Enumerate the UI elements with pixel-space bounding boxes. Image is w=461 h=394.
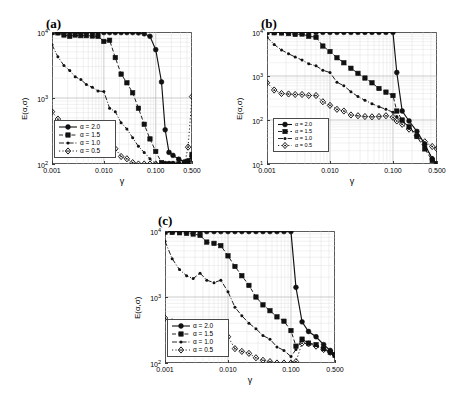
legend-item-b-3[interactable]: α = 0.5 (277, 142, 325, 149)
x-tick-label-b-0: 0.001 (251, 167, 283, 174)
x-tick-label-a-3: 0.500 (176, 167, 208, 174)
x-tick-label-a-2: 0.100 (140, 167, 172, 174)
x-axis-label-b: γ (267, 176, 437, 186)
legend-label-c-0: α = 2.0 (191, 322, 213, 330)
legend-symbol-square-icon (171, 330, 191, 338)
legend-b: α = 2.0α = 1.5α = 1.0α = 0.5 (273, 118, 329, 152)
x-tick-label-a-1: 0.010 (88, 167, 120, 174)
legend-item-c-0[interactable]: α = 2.0 (171, 322, 225, 330)
x-tick-mark-b-3 (437, 161, 438, 164)
legend-label-b-3: α = 0.5 (293, 142, 312, 149)
y-tick-mark-a-1 (52, 98, 55, 99)
legend-label-b-2: α = 1.0 (293, 135, 312, 142)
y-tick-mark-b-3 (267, 164, 270, 165)
panel-a: (a)1041031020.0010.0100.1000.500E(α,σ)γα… (0, 0, 215, 200)
x-tick-label-b-2: 0.100 (377, 167, 409, 174)
legend-symbol-diamond-icon (171, 346, 191, 354)
legend-item-c-1[interactable]: α = 1.5 (171, 330, 225, 338)
legend-item-b-2[interactable]: α = 1.0 (277, 135, 325, 142)
x-tick-mark-a-0 (52, 161, 53, 164)
x-tick-label-c-3: 0.500 (319, 366, 351, 373)
legend-c: α = 2.0α = 1.5α = 1.0α = 0.5 (167, 319, 229, 357)
x-tick-mark-a-2 (156, 161, 157, 164)
x-tick-mark-b-2 (393, 161, 394, 164)
legend-item-a-0[interactable]: α = 2.0 (58, 123, 112, 131)
panel-c: (c)1041031020.0010.0100.1000.500E(α,σ)γα… (110, 195, 360, 394)
y-tick-label-a-1: 103 (26, 94, 48, 103)
x-tick-label-c-0: 0.001 (149, 366, 181, 373)
y-tick-label-b-1: 103 (241, 72, 263, 81)
legend-a: α = 2.0α = 1.5α = 1.0α = 0.5 (54, 120, 116, 158)
y-tick-label-c-1: 103 (139, 293, 161, 302)
legend-symbol-square-icon (277, 128, 293, 135)
x-tick-label-c-1: 0.010 (212, 366, 244, 373)
legend-symbol-square-icon (58, 131, 78, 139)
legend-label-b-1: α = 1.5 (293, 128, 312, 135)
legend-item-b-1[interactable]: α = 1.5 (277, 128, 325, 135)
legend-item-a-2[interactable]: α = 1.0 (58, 139, 112, 147)
panel-label-a: (a) (46, 16, 61, 32)
y-tick-mark-c-2 (165, 363, 168, 364)
legend-symbol-circle-icon (171, 322, 191, 330)
legend-item-b-0[interactable]: α = 2.0 (277, 121, 325, 128)
x-tick-mark-a-1 (104, 161, 105, 164)
y-tick-mark-c-0 (165, 231, 168, 232)
x-tick-mark-a-3 (192, 161, 193, 164)
x-tick-label-b-1: 0.010 (314, 167, 346, 174)
legend-label-a-3: α = 0.5 (78, 147, 100, 155)
x-tick-mark-c-0 (165, 360, 166, 363)
y-tick-mark-c-1 (165, 297, 168, 298)
y-tick-label-a-0: 104 (26, 28, 48, 37)
x-tick-label-c-2: 0.100 (275, 366, 307, 373)
legend-label-c-3: α = 0.5 (191, 346, 213, 354)
legend-item-c-2[interactable]: α = 1.0 (171, 338, 225, 346)
x-tick-mark-b-0 (267, 161, 268, 164)
y-axis-label-c: E(α,σ) (133, 297, 142, 319)
x-axis-label-c: γ (165, 375, 335, 385)
legend-symbol-circle-icon (58, 123, 78, 131)
legend-symbol-dot-icon (58, 139, 78, 147)
y-tick-mark-b-1 (267, 76, 270, 77)
legend-label-b-0: α = 2.0 (293, 121, 312, 128)
y-tick-mark-a-0 (52, 32, 55, 33)
x-tick-mark-c-3 (335, 360, 336, 363)
y-axis-label-a: E(α,σ) (20, 98, 29, 120)
panel-b: (b)1041031021010.0010.0100.1000.500E(α,σ… (215, 0, 461, 200)
y-tick-mark-b-2 (267, 120, 270, 121)
legend-label-a-0: α = 2.0 (78, 123, 100, 131)
legend-symbol-diamond-icon (277, 142, 293, 149)
x-tick-label-a-0: 0.001 (36, 167, 68, 174)
y-tick-label-b-2: 102 (241, 116, 263, 125)
legend-symbol-circle-icon (277, 121, 293, 128)
y-axis-label-b: E(α,σ) (235, 98, 244, 120)
panel-label-b: (b) (261, 16, 277, 32)
x-tick-label-b-3: 0.500 (421, 167, 453, 174)
legend-symbol-diamond-icon (58, 147, 78, 155)
legend-symbol-dot-icon (277, 135, 293, 142)
x-tick-mark-b-1 (330, 161, 331, 164)
legend-label-c-1: α = 1.5 (191, 330, 213, 338)
y-tick-label-c-0: 104 (139, 227, 161, 236)
legend-label-c-2: α = 1.0 (191, 338, 213, 346)
legend-label-a-1: α = 1.5 (78, 131, 100, 139)
y-tick-label-b-0: 104 (241, 28, 263, 37)
x-tick-mark-c-1 (228, 360, 229, 363)
legend-label-a-2: α = 1.0 (78, 139, 100, 147)
legend-symbol-dot-icon (171, 338, 191, 346)
legend-item-a-1[interactable]: α = 1.5 (58, 131, 112, 139)
legend-item-c-3[interactable]: α = 0.5 (171, 346, 225, 354)
x-tick-mark-c-2 (291, 360, 292, 363)
y-tick-mark-b-0 (267, 32, 270, 33)
legend-item-a-3[interactable]: α = 0.5 (58, 147, 112, 155)
x-axis-label-a: γ (52, 176, 192, 186)
y-tick-mark-a-2 (52, 164, 55, 165)
